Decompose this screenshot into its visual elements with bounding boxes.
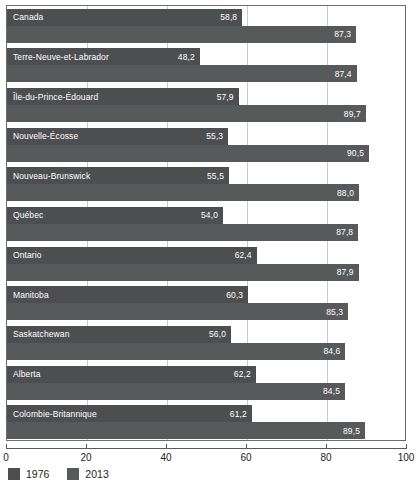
bar-value-label: 84,6 [323, 346, 340, 356]
bar-value-label: 48,2 [178, 52, 195, 62]
bar-1976: Terre-Neuve-et-Labrador48,2 [7, 48, 200, 65]
bar-2013: 87,8 [7, 224, 358, 241]
bar-value-label: 89,5 [343, 426, 360, 436]
legend-item-2013[interactable]: 2013 [67, 468, 108, 480]
tick-label-100: 100 [398, 452, 415, 463]
bar-value-label: 87,9 [337, 267, 354, 277]
bar-value-label: 87,4 [335, 69, 352, 79]
tick-label-80: 80 [320, 452, 331, 463]
bar-1976: Québec54,0 [7, 207, 223, 224]
bar-2013: 84,6 [7, 343, 345, 360]
bar-2013: 90,5 [7, 145, 369, 162]
bar-value-label: 62,2 [234, 369, 251, 379]
tick-80 [326, 444, 327, 449]
bar-2013: 87,3 [7, 26, 356, 43]
bar-group: Alberta62,284,5 [7, 363, 405, 403]
bar-value-label: 62,4 [235, 250, 252, 260]
tick-40 [166, 444, 167, 449]
bar-2013: 87,4 [7, 65, 357, 82]
tick-label-60: 60 [240, 452, 251, 463]
legend-label: 1976 [26, 469, 49, 480]
x-axis [6, 448, 406, 449]
category-label: Nouveau-Brunswick [13, 171, 90, 181]
bar-1976: Alberta62,2 [7, 366, 256, 383]
category-label: Colombie-Britannique [13, 409, 97, 419]
bar-1976: Canada58,8 [7, 9, 242, 26]
bar-value-label: 54,0 [201, 210, 218, 220]
bar-group: Québec54,087,8 [7, 204, 405, 244]
tick-label-20: 20 [80, 452, 91, 463]
bar-1976: Nouvelle-Écosse55,3 [7, 128, 228, 145]
bar-value-label: 58,8 [220, 12, 237, 22]
tick-label-0: 0 [3, 452, 9, 463]
bar-value-label: 85,3 [326, 307, 343, 317]
category-label: Manitoba [13, 290, 49, 300]
horizontal-bar-chart: Canada58,887,3Terre-Neuve-et-Labrador48,… [0, 0, 418, 491]
tick-label-40: 40 [160, 452, 171, 463]
bar-1976: Nouveau-Brunswick55,5 [7, 167, 229, 184]
tick-60 [246, 444, 247, 449]
category-label: Alberta [13, 369, 41, 379]
bar-2013: 89,7 [7, 105, 366, 122]
bar-2013: 87,9 [7, 264, 359, 281]
category-label: Saskatchewan [13, 329, 69, 339]
legend-item-1976[interactable]: 1976 [8, 468, 49, 480]
bar-2013: 89,5 [7, 422, 365, 439]
bar-value-label: 55,3 [206, 131, 223, 141]
bar-group: Canada58,887,3 [7, 6, 405, 46]
bar-value-label: 60,3 [226, 290, 243, 300]
bar-2013: 85,3 [7, 303, 348, 320]
category-label: Canada [13, 12, 43, 22]
bar-group: Terre-Neuve-et-Labrador48,287,4 [7, 46, 405, 86]
bar-1976: Ontario62,4 [7, 247, 257, 264]
category-label: Ontario [13, 250, 42, 260]
bar-group: Ontario62,487,9 [7, 244, 405, 284]
bar-value-label: 57,9 [217, 92, 234, 102]
bar-value-label: 90,5 [347, 148, 364, 158]
bar-1976: Manitoba60,3 [7, 286, 248, 303]
category-label: Île-du-Prince-Édouard [13, 92, 98, 102]
bar-value-label: 87,8 [336, 227, 353, 237]
bar-group: Île-du-Prince-Édouard57,989,7 [7, 85, 405, 125]
bar-value-label: 84,5 [323, 386, 340, 396]
bar-group: Nouvelle-Écosse55,390,5 [7, 125, 405, 165]
bar-group: Nouveau-Brunswick55,588,0 [7, 165, 405, 205]
bar-2013: 88,0 [7, 184, 359, 201]
tick-20 [86, 444, 87, 449]
tick-0 [6, 444, 7, 449]
chart-legend: 19762013 [8, 468, 109, 480]
bar-value-label: 56,0 [209, 329, 226, 339]
bar-value-label: 55,5 [207, 171, 224, 181]
bar-1976: Saskatchewan56,0 [7, 326, 231, 343]
bar-2013: 84,5 [7, 383, 345, 400]
bar-1976: Colombie-Britannique61,2 [7, 405, 252, 422]
bar-value-label: 87,3 [334, 29, 351, 39]
legend-label: 2013 [85, 469, 108, 480]
legend-swatch-icon [67, 468, 79, 480]
bar-group: Colombie-Britannique61,289,5 [7, 402, 405, 441]
legend-swatch-icon [8, 468, 20, 480]
bar-value-label: 61,2 [230, 409, 247, 419]
bar-1976: Île-du-Prince-Édouard57,9 [7, 88, 239, 105]
category-label: Terre-Neuve-et-Labrador [13, 52, 109, 62]
bar-value-label: 88,0 [337, 188, 354, 198]
category-label: Québec [13, 210, 43, 220]
bar-value-label: 89,7 [344, 109, 361, 119]
bar-group: Manitoba60,385,3 [7, 283, 405, 323]
plot-area: Canada58,887,3Terre-Neuve-et-Labrador48,… [6, 5, 406, 441]
bar-group: Saskatchewan56,084,6 [7, 323, 405, 363]
category-label: Nouvelle-Écosse [13, 131, 78, 141]
tick-100 [406, 444, 407, 449]
